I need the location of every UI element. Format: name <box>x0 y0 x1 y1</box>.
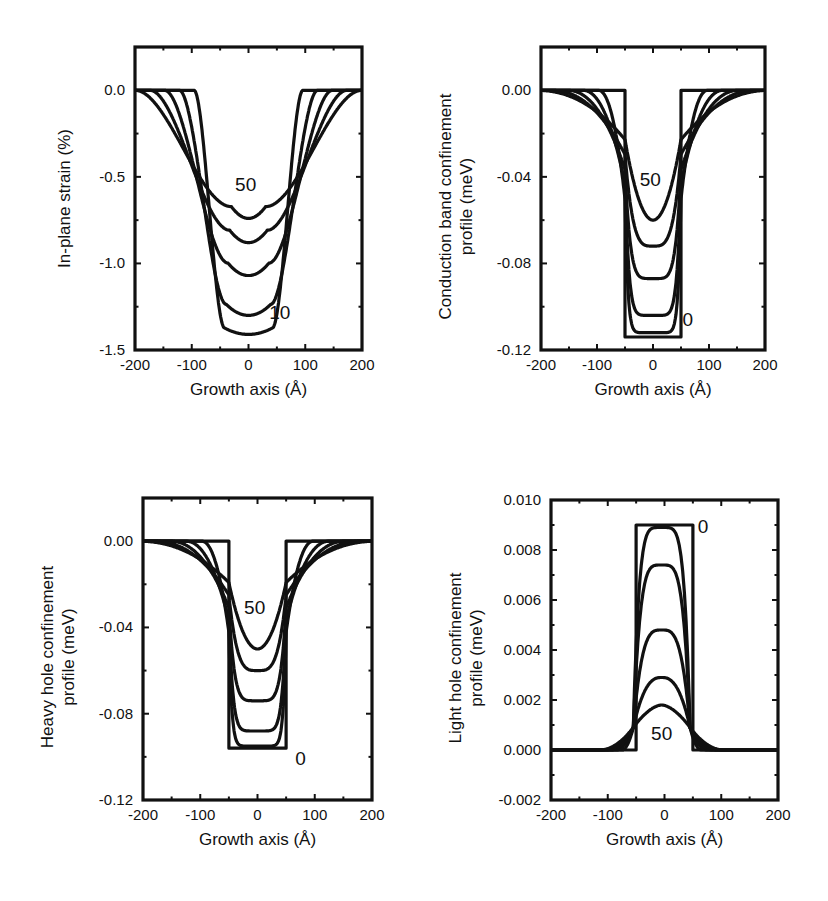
x-tick-label: -200 <box>536 806 566 823</box>
figure: -200-10001002000.0-0.5-1.0-1.5Growth axi… <box>0 0 828 901</box>
plot-area <box>551 525 778 750</box>
x-tick-label: 100 <box>709 806 734 823</box>
curve-50 <box>143 541 372 649</box>
y-axis-label: profile (meV) <box>467 609 486 706</box>
y-axis-label: In-plane strain (%) <box>55 129 74 268</box>
curve-10 <box>135 90 362 334</box>
x-tick-label: 100 <box>293 356 318 373</box>
curve-30 <box>143 541 372 701</box>
y-axis-label: Conduction band confinement <box>436 93 455 319</box>
plot-frame <box>551 500 778 800</box>
x-tick-label: -200 <box>526 356 556 373</box>
curve-50 <box>541 90 765 220</box>
y-tick-label: -0.08 <box>497 254 531 271</box>
curve-annotation: 0 <box>295 748 306 769</box>
y-tick-label: -0.12 <box>497 341 531 358</box>
y-tick-label: 0.010 <box>503 491 541 508</box>
x-tick-label: -100 <box>177 356 207 373</box>
panel-heavy-hole: -200-10001002000.00-0.04-0.08-0.12Growth… <box>38 498 385 849</box>
plot-area <box>143 541 372 748</box>
curve-annotation: 50 <box>244 597 265 618</box>
x-axis-label: Growth axis (Å) <box>199 830 316 849</box>
curve-annotation: 50 <box>640 169 661 190</box>
y-tick-label: 0.008 <box>503 541 541 558</box>
x-tick-label: 200 <box>752 356 777 373</box>
y-tick-label: -0.08 <box>99 705 133 722</box>
x-tick-label: 0 <box>660 806 668 823</box>
panel-light-hole: -200-10001002000.0100.0080.0060.0040.002… <box>446 491 791 849</box>
y-axis-label: Light hole confinement <box>446 572 465 743</box>
y-tick-label: -0.04 <box>99 618 133 635</box>
y-tick-label: 0.006 <box>503 591 541 608</box>
x-tick-label: 200 <box>359 806 384 823</box>
y-tick-label: -0.002 <box>498 791 541 808</box>
curve-annotation: 10 <box>269 302 290 323</box>
x-tick-label: -100 <box>582 356 612 373</box>
x-tick-label: 200 <box>765 806 790 823</box>
y-axis-label: profile (meV) <box>59 608 78 705</box>
y-tick-label: 0.004 <box>503 641 541 658</box>
x-axis-label: Growth axis (Å) <box>594 380 711 399</box>
y-tick-label: -0.5 <box>99 168 125 185</box>
x-tick-label: 100 <box>302 806 327 823</box>
x-tick-label: -100 <box>185 806 215 823</box>
y-tick-label: -1.0 <box>99 254 125 271</box>
y-axis-label: profile (meV) <box>457 158 476 255</box>
x-tick-label: 100 <box>696 356 721 373</box>
curve-annotation: 0 <box>698 516 709 537</box>
curve-0 <box>541 90 765 337</box>
x-tick-label: -200 <box>128 806 158 823</box>
plot-area <box>135 90 362 334</box>
curve-annotation: 0 <box>682 309 693 330</box>
x-axis-label: Growth axis (Å) <box>606 830 723 849</box>
curve-20 <box>143 541 372 731</box>
x-tick-label: 200 <box>349 356 374 373</box>
curve-0 <box>143 541 372 748</box>
x-tick-label: -200 <box>120 356 150 373</box>
x-tick-label: 0 <box>253 806 261 823</box>
curve-annotation: 50 <box>651 723 672 744</box>
curve-10 <box>551 528 778 751</box>
curve-10 <box>541 90 765 332</box>
y-tick-label: -1.5 <box>99 341 125 358</box>
panel-conduction-band: -200-10001002000.00-0.04-0.08-0.12Growth… <box>436 47 778 399</box>
y-tick-label: 0.000 <box>503 741 541 758</box>
y-tick-label: -0.12 <box>99 791 133 808</box>
panel-in-plane-strain: -200-10001002000.0-0.5-1.0-1.5Growth axi… <box>55 47 375 399</box>
plot-area <box>541 90 765 337</box>
curve-0 <box>551 525 778 750</box>
y-tick-label: 0.002 <box>503 691 541 708</box>
x-tick-label: 0 <box>649 356 657 373</box>
y-tick-label: -0.04 <box>497 168 531 185</box>
x-tick-label: 0 <box>244 356 252 373</box>
y-tick-label: 0.00 <box>502 81 531 98</box>
x-tick-label: -100 <box>593 806 623 823</box>
y-tick-label: 0.0 <box>104 81 125 98</box>
x-axis-label: Growth axis (Å) <box>190 380 307 399</box>
curve-20 <box>541 90 765 315</box>
y-axis-label: Heavy hole confinement <box>38 566 57 749</box>
curve-10 <box>143 541 372 746</box>
y-tick-label: 0.00 <box>104 532 133 549</box>
curve-annotation: 50 <box>235 174 256 195</box>
